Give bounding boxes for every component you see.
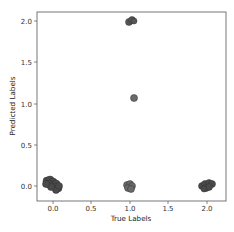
x-axis-label: True Labels <box>110 214 152 223</box>
x-tick-label: 2.0 <box>201 205 212 213</box>
y-tick-label: 0.5 <box>21 142 32 150</box>
x-tick-label: 1.5 <box>162 205 173 213</box>
plot-area <box>37 12 226 201</box>
point-true1-pred1 <box>131 95 138 102</box>
y-tick-label: 0.0 <box>21 183 32 191</box>
y-tick-label: 2.0 <box>21 18 32 26</box>
x-tick-label: 0.0 <box>47 205 58 213</box>
x-tick-label: 1.0 <box>124 205 135 213</box>
y-tick-label: 1.0 <box>21 101 32 109</box>
y-axis-label: Predicted Labels <box>8 76 17 135</box>
x-tick-label: 0.5 <box>85 205 96 213</box>
x-axis: 0.0 0.5 1.0 1.5 2.0 True Labels <box>47 201 212 223</box>
y-tick-label: 1.5 <box>21 59 32 67</box>
scatter-chart: 0.0 0.5 1.0 1.5 2.0 True Labels 0.0 0.5 … <box>0 0 234 232</box>
y-axis: 0.0 0.5 1.0 1.5 2.0 Predicted Labels <box>8 18 37 191</box>
